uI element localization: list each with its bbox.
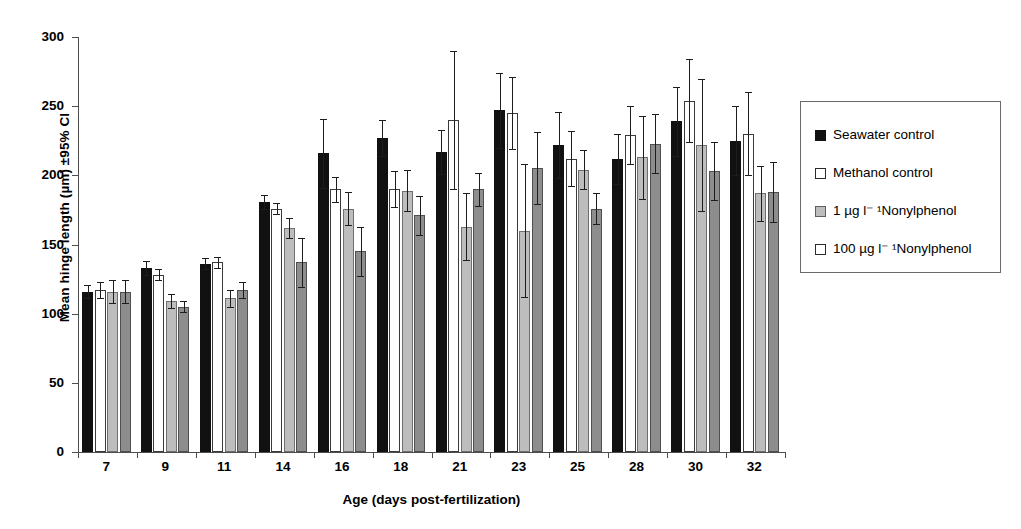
error-bar-cap xyxy=(298,238,305,239)
error-bar-cap xyxy=(109,303,116,304)
bar-group xyxy=(196,37,255,452)
error-bar xyxy=(88,285,89,299)
legend-item[interactable]: Seawater control xyxy=(815,116,1000,154)
error-bar xyxy=(500,73,501,148)
bar[interactable] xyxy=(166,301,177,452)
error-bar-cap xyxy=(639,116,646,117)
bar[interactable] xyxy=(532,168,543,452)
bar[interactable] xyxy=(377,138,388,452)
bar[interactable] xyxy=(296,262,307,452)
bar[interactable] xyxy=(225,298,236,452)
bar[interactable] xyxy=(330,189,341,452)
bar[interactable] xyxy=(566,159,577,452)
bar[interactable] xyxy=(755,193,766,452)
bar[interactable] xyxy=(637,157,648,452)
error-bar-cap xyxy=(568,131,575,132)
bar[interactable] xyxy=(389,189,400,452)
bar[interactable] xyxy=(107,292,118,452)
error-bar-cap xyxy=(332,202,339,203)
bar[interactable] xyxy=(259,202,270,452)
error-bar-cap xyxy=(357,227,364,228)
bar-group xyxy=(314,37,373,452)
error-bar-cap xyxy=(580,150,587,151)
error-bar-cap xyxy=(698,211,705,212)
error-bar-cap xyxy=(534,132,541,133)
bar[interactable] xyxy=(684,101,695,452)
legend-item[interactable]: Methanol control xyxy=(815,154,1000,192)
error-bar xyxy=(420,196,421,235)
error-bar-cap xyxy=(320,119,327,120)
bar-group xyxy=(667,37,726,452)
bar[interactable] xyxy=(743,134,754,452)
bar[interactable] xyxy=(318,153,329,452)
error-bar xyxy=(643,116,644,199)
bar[interactable] xyxy=(343,209,354,452)
error-bar xyxy=(382,120,383,156)
bar[interactable] xyxy=(730,141,741,452)
y-tick-label: 250 xyxy=(20,99,64,113)
error-bar-cap xyxy=(711,200,718,201)
bar[interactable] xyxy=(95,290,106,452)
error-bar-cap xyxy=(286,218,293,219)
bar[interactable] xyxy=(507,113,518,452)
bar[interactable] xyxy=(578,170,589,452)
error-bar xyxy=(618,134,619,184)
legend-swatch-np-high-icon xyxy=(815,244,826,255)
bar[interactable] xyxy=(120,292,131,452)
bar[interactable] xyxy=(153,275,164,452)
error-bar-cap xyxy=(357,276,364,277)
x-tick-label: 9 xyxy=(161,460,169,474)
bar[interactable] xyxy=(709,171,720,452)
bar[interactable] xyxy=(178,307,189,452)
error-bar-cap xyxy=(345,192,352,193)
error-bar xyxy=(159,269,160,280)
error-bar-cap xyxy=(97,298,104,299)
bar[interactable] xyxy=(625,135,636,452)
bar[interactable] xyxy=(212,262,223,452)
x-tick-mark xyxy=(137,452,138,458)
bar[interactable] xyxy=(271,209,282,452)
error-bar xyxy=(336,177,337,202)
bar[interactable] xyxy=(284,228,295,452)
error-bar-cap xyxy=(239,298,246,299)
bar[interactable] xyxy=(436,152,447,452)
error-bar xyxy=(361,227,362,277)
x-tick-mark xyxy=(255,452,256,458)
error-bar-cap xyxy=(555,112,562,113)
bar[interactable] xyxy=(237,290,248,452)
bar[interactable] xyxy=(768,192,779,452)
error-bar-cap xyxy=(227,290,234,291)
error-bar xyxy=(395,171,396,207)
bar[interactable] xyxy=(82,292,93,452)
error-bar xyxy=(761,166,762,221)
error-bar-cap xyxy=(214,257,221,258)
error-bar xyxy=(205,258,206,269)
error-bar-cap xyxy=(391,207,398,208)
bar[interactable] xyxy=(473,189,484,452)
bar[interactable] xyxy=(650,144,661,452)
error-bar-cap xyxy=(345,225,352,226)
bar-group xyxy=(549,37,608,452)
error-bar-cap xyxy=(143,261,150,262)
legend-label: Methanol control xyxy=(833,166,933,180)
error-bar xyxy=(655,114,656,172)
legend-item[interactable]: 100 µg l⁻ ¹Nonylphenol xyxy=(815,230,1000,268)
bar[interactable] xyxy=(612,159,623,452)
bar[interactable] xyxy=(671,121,682,452)
bar[interactable] xyxy=(402,191,413,452)
bar[interactable] xyxy=(414,215,425,452)
bar[interactable] xyxy=(591,209,602,452)
bar[interactable] xyxy=(355,251,366,452)
bar[interactable] xyxy=(141,268,152,452)
bar[interactable] xyxy=(553,145,564,452)
bar[interactable] xyxy=(200,264,211,452)
error-bar-cap xyxy=(496,148,503,149)
error-bar-cap xyxy=(711,142,718,143)
legend-item[interactable]: 1 µg l⁻ ¹Nonylphenol xyxy=(815,192,1000,230)
error-bar-cap xyxy=(745,175,752,176)
x-tick-label: 30 xyxy=(688,460,703,474)
legend-label: 100 µg l⁻ ¹Nonylphenol xyxy=(833,242,972,256)
y-tick-label: 100 xyxy=(20,307,64,321)
error-bar-cap xyxy=(580,189,587,190)
bar[interactable] xyxy=(494,110,505,452)
